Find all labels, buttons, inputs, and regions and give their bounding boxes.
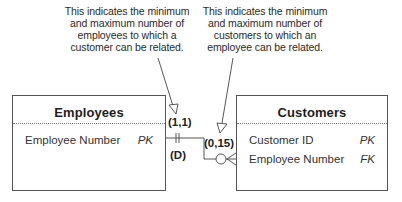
zero-or-many-icon [216, 153, 236, 165]
relationship-connector [0, 0, 402, 202]
relationship-line [166, 138, 216, 159]
callout-arrow-right [217, 58, 233, 133]
callout-arrow-left [158, 58, 178, 114]
